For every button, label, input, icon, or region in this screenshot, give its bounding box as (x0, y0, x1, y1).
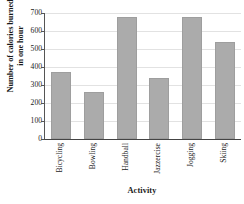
x-tick-label-jogging: Jogging (187, 143, 195, 167)
bars-layer (45, 13, 241, 139)
xtick-cell-jazzercise: Jazzercise (148, 141, 168, 185)
x-tick-label-bowling: Bowling (89, 143, 97, 169)
y-tick-label-700: 700 (22, 9, 42, 17)
xtick-cell-bowling: Bowling (83, 141, 103, 185)
bar-skiing (215, 42, 235, 139)
y-tick-label-300: 300 (22, 81, 42, 89)
x-axis-title: Activity (44, 186, 240, 195)
y-tick-label-500: 500 (22, 45, 42, 53)
bar-chart-figure: Number of calories burned in one hour 0 … (0, 0, 244, 204)
x-tick-label-jazzercise: Jazzercise (154, 143, 162, 174)
x-tick-label-bicycling: Bicycling (56, 143, 64, 173)
bar-handball (117, 17, 137, 139)
xtick-cell-bicycling: Bicycling (50, 141, 70, 185)
y-axis-tick-labels: 0 100 200 300 400 500 600 700 (18, 13, 42, 139)
y-tick-label-600: 600 (22, 27, 42, 35)
x-tick-label-skiing: Skiing (220, 143, 228, 163)
xtick-cell-handball: Handball (116, 141, 136, 185)
y-tick-label-0: 0 (22, 135, 42, 143)
y-tick-label-100: 100 (22, 117, 42, 125)
xtick-cell-jogging: Jogging (181, 141, 201, 185)
bar-jogging (182, 17, 202, 139)
x-axis-tick-labels: Bicycling Bowling Handball Jazzercise Jo… (44, 141, 240, 185)
xtick-cell-skiing: Skiing (214, 141, 234, 185)
y-tick-label-400: 400 (22, 63, 42, 71)
plot-area (44, 13, 241, 140)
bar-jazzercise (149, 78, 169, 139)
bar-bowling (84, 92, 104, 139)
x-tick-label-handball: Handball (122, 143, 130, 171)
y-axis-title-line-1: Number of calories burned (6, 0, 16, 93)
bar-bicycling (51, 72, 71, 140)
y-tick-label-200: 200 (22, 99, 42, 107)
